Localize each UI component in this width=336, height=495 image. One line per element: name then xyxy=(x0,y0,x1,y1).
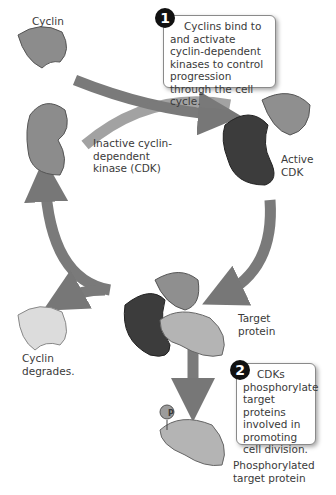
label-target-protein: Target protein xyxy=(238,312,275,337)
degraded-cyclin-shape xyxy=(18,307,67,350)
step-1-text: Cyclins bind to and activate cyclin-depe… xyxy=(170,20,269,108)
cell-cycle-diagram: P Cyclin Inactive cyclin- dependent kina… xyxy=(0,0,336,495)
step-1-badge: 1 xyxy=(155,8,175,28)
arrow-to-target xyxy=(222,200,270,295)
phosphate-label: P xyxy=(168,408,174,421)
active-cyclin-shape xyxy=(262,94,310,135)
cyclin-shape xyxy=(18,27,67,68)
label-inactive-cdk: Inactive cyclin- dependent kinase (CDK) xyxy=(93,137,172,175)
arrow-to-inactive xyxy=(45,180,110,290)
label-phosphorylated-target: Phosphorylated target protein xyxy=(233,459,315,484)
label-active-cdk: Active CDK xyxy=(281,153,313,178)
step-2-badge: 2 xyxy=(230,360,250,380)
step-1-callout: Cyclins bind to and activate cyclin-depe… xyxy=(163,15,276,88)
inactive-cdk-shape xyxy=(27,104,67,175)
label-cyclin-degrades: Cyclin degrades. xyxy=(22,352,74,377)
label-cyclin: Cyclin xyxy=(32,15,64,28)
arrow-degrade xyxy=(62,290,105,300)
active-cdk-shape xyxy=(223,115,274,185)
step-2-text: CDKs phosphorylate target proteins invol… xyxy=(243,368,309,456)
phosphorylated-target-shape xyxy=(160,420,224,466)
